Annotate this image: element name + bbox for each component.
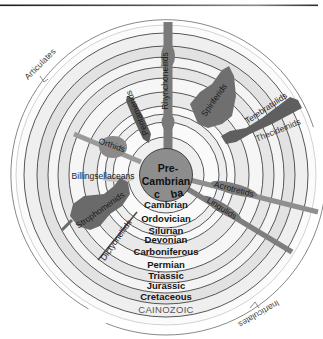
period-label-carboniferous: Carboniferous [134, 246, 199, 257]
period-label-cambrian: Cambrian [144, 199, 188, 210]
top-rule [0, 5, 318, 7]
center-label-line1: Pre- [158, 162, 179, 174]
center-label-line2: Cambrian [142, 175, 190, 187]
period-label-ordovician: Ordovician [141, 213, 191, 224]
era-label-cainozoic: CAINOZOIC [138, 304, 193, 315]
radial-diagram: Pre- Cambrian c ba Cambrian Ordovician S… [0, 0, 323, 339]
label-billingsellaceans: Billingsellaceans [72, 171, 135, 181]
period-label-devonian: Devonian [145, 234, 188, 245]
period-label-jurassic: Jurassic [147, 280, 186, 291]
brachiopod-evolution-diagram: Pre- Cambrian c ba Cambrian Ordovician S… [0, 0, 323, 339]
label-rhynchonellids: Rhynchonellids [160, 52, 170, 110]
period-label-permian: Permian [147, 259, 185, 270]
period-label-cretaceous: Cretaceous [140, 291, 192, 302]
inarticulates-bracket-tick [250, 302, 259, 308]
